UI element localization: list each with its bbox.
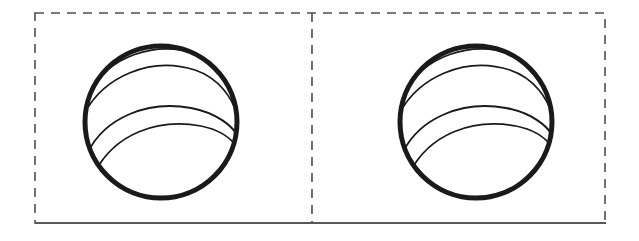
right-panel bbox=[398, 46, 554, 198]
sphere-left bbox=[83, 46, 239, 198]
figure-root bbox=[0, 0, 639, 241]
sphere-right bbox=[398, 46, 554, 198]
left-panel bbox=[83, 46, 239, 198]
figure-canvas bbox=[0, 0, 639, 241]
